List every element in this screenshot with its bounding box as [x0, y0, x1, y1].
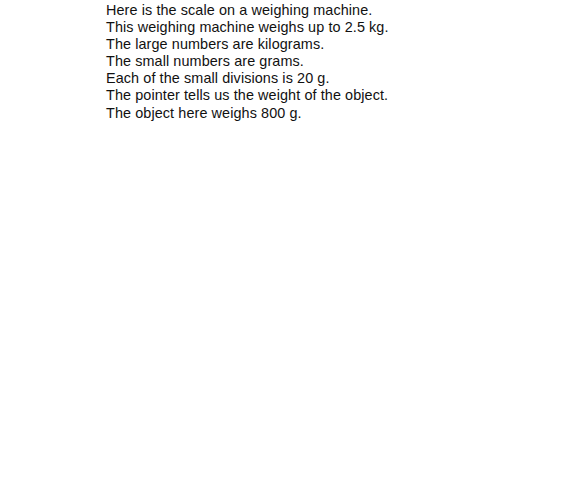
caption-line-4: The small numbers are grams. [106, 53, 546, 70]
caption-line-3: The large numbers are kilograms. [106, 36, 546, 53]
caption-text-block: Here is the scale on a weighing machine.… [106, 2, 546, 122]
caption-line-1: Here is the scale on a weighing machine. [106, 2, 546, 19]
caption-line-5: Each of the small divisions is 20 g. [106, 70, 546, 87]
weighing-scale-bottom: 0 kg200400600800120040060080022004004002… [0, 300, 562, 485]
caption-line-6: The pointer tells us the weight of the o… [106, 87, 546, 104]
caption-line-2: This weighing machine weighs up to 2.5 k… [106, 19, 546, 36]
caption-line-7: The object here weighs 800 g. [106, 105, 546, 122]
weighing-scale-top: 0 kg200400600800120040060080022004004002… [0, 128, 562, 313]
